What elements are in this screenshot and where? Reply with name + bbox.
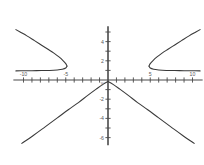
y-tick-label: 4	[101, 39, 104, 45]
y-tick-label: -2	[99, 96, 104, 102]
x-tick-label: -10	[20, 71, 28, 77]
y-tick-label: -4	[99, 115, 104, 121]
y-tick-label: 2	[101, 58, 104, 64]
x-tick-label: -5	[63, 71, 68, 77]
plot-container: -10-5510 42-2-4-6 y	[0, 0, 204, 165]
x-tick-label: 5	[149, 71, 152, 77]
y-tick-label: -6	[99, 135, 104, 141]
x-tick-label: 10	[190, 71, 196, 77]
plot-canvas: -10-5510 42-2-4-6 y	[0, 0, 204, 165]
